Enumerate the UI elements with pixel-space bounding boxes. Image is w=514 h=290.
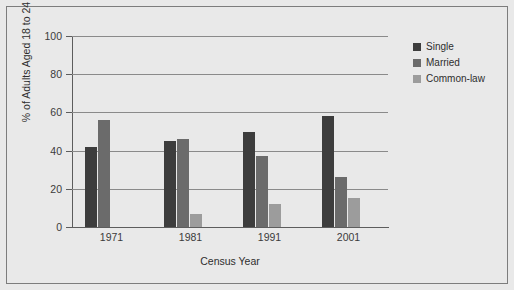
chart-figure: 020406080100 % of Adults Aged 18 to 24 C…	[0, 0, 514, 290]
x-axis-title: Census Year	[72, 255, 388, 267]
y-tick-label: 100	[28, 31, 62, 42]
bar	[322, 116, 334, 227]
y-tick-mark	[66, 151, 72, 152]
y-tick-mark	[66, 74, 72, 75]
bar	[177, 139, 189, 227]
y-axis-title: % of Adults Aged 18 to 24	[20, 0, 32, 152]
bar-group	[243, 36, 281, 227]
legend-item: Married	[413, 57, 505, 68]
plot-area	[72, 36, 388, 227]
legend-item: Single	[413, 41, 505, 52]
bar	[190, 214, 202, 227]
y-tick-mark	[66, 227, 72, 228]
y-tick-mark	[66, 36, 72, 37]
legend-label: Married	[426, 58, 460, 68]
legend-swatch-icon	[413, 75, 421, 83]
y-tick-label: 60	[28, 107, 62, 118]
bar	[256, 156, 268, 227]
x-tick-label: 1991	[230, 232, 309, 243]
bar	[348, 198, 360, 227]
y-tick-label: 40	[28, 146, 62, 157]
x-tick-label: 2001	[309, 232, 388, 243]
y-tick-mark	[66, 189, 72, 190]
bar-group	[85, 36, 123, 227]
legend-swatch-icon	[413, 43, 421, 51]
bar	[164, 141, 176, 227]
bar	[335, 177, 347, 227]
y-tick-label: 80	[28, 69, 62, 80]
chart-legend: SingleMarriedCommon-law	[413, 41, 505, 89]
gridline	[72, 227, 388, 228]
legend-label: Single	[426, 42, 454, 52]
bar-group	[164, 36, 202, 227]
y-tick-label: 20	[28, 184, 62, 195]
x-tick-label: 1981	[151, 232, 230, 243]
legend-label: Common-law	[426, 74, 485, 84]
legend-swatch-icon	[413, 59, 421, 67]
y-tick-mark	[66, 112, 72, 113]
bar	[98, 120, 110, 227]
y-tick-label: 0	[28, 222, 62, 233]
bar	[243, 132, 255, 228]
bar-group	[322, 36, 360, 227]
legend-item: Common-law	[413, 73, 505, 84]
bar	[85, 147, 97, 227]
bar	[269, 204, 281, 227]
x-tick-label: 1971	[72, 232, 151, 243]
